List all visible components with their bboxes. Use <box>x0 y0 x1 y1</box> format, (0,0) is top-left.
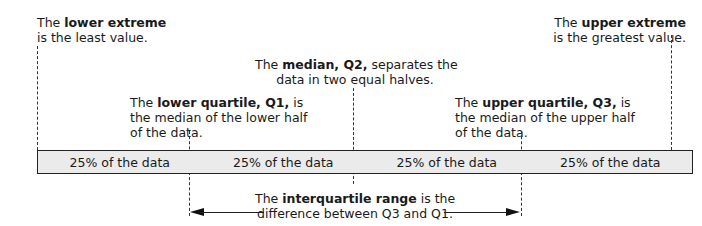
median-term: median, Q2, <box>282 57 367 72</box>
lower-quartile-term: lower quartile, Q1, <box>157 95 289 110</box>
bar-segment-3: 25% of the data <box>365 151 529 173</box>
upper-quartile-suffix: is <box>617 95 631 110</box>
median-desc: data in two equal halves. <box>255 72 455 87</box>
lower-extreme-label: The lower extreme is the least value. <box>37 15 166 45</box>
iqr-desc: difference between Q3 and Q1. <box>255 206 455 221</box>
iqr-arrow-right-line <box>444 212 508 213</box>
lower-extreme-desc: is the least value. <box>37 30 166 45</box>
bar-segment-1: 25% of the data <box>38 151 202 173</box>
upper-extreme-term: upper extreme <box>582 15 686 30</box>
median-prefix: The <box>255 57 282 72</box>
upper-extreme-marker <box>671 35 672 150</box>
upper-quartile-term: upper quartile, Q3, <box>482 95 616 110</box>
lower-quartile-label: The lower quartile, Q1, is the median of… <box>130 95 307 140</box>
bar-segment-2: 25% of the data <box>202 151 366 173</box>
iqr-label: The interquartile range is the differenc… <box>255 191 455 221</box>
bar-segment-4: 25% of the data <box>529 151 693 173</box>
lower-extreme-term: lower extreme <box>64 15 166 30</box>
upper-quartile-desc-1: the median of the upper half <box>455 110 635 125</box>
lower-quartile-prefix: The <box>130 95 157 110</box>
median-label: The median, Q2, separates the data in tw… <box>255 57 455 87</box>
upper-extreme-desc: is the greatest value. <box>553 30 686 45</box>
lower-quartile-suffix: is <box>289 95 303 110</box>
upper-extreme-label: The upper extreme is the greatest value. <box>553 15 686 45</box>
iqr-arrow-right-icon <box>506 208 520 216</box>
lower-quartile-desc-1: the median of the lower half <box>130 110 307 125</box>
iqr-suffix: is the <box>417 191 455 206</box>
upper-extreme-prefix: The <box>554 15 581 30</box>
lower-quartile-desc-2: of the data. <box>130 125 307 140</box>
data-bar: 25% of the data 25% of the data 25% of t… <box>37 150 693 174</box>
lower-extreme-marker <box>37 46 38 150</box>
upper-quartile-desc-2: of the data. <box>455 125 635 140</box>
iqr-term: interquartile range <box>282 191 417 206</box>
upper-quartile-label: The upper quartile, Q3, is the median of… <box>455 95 635 140</box>
upper-quartile-prefix: The <box>455 95 482 110</box>
iqr-prefix: The <box>255 191 282 206</box>
lower-extreme-prefix: The <box>37 15 64 30</box>
iqr-arrow-left-line <box>200 212 264 213</box>
median-suffix: separates the <box>367 57 457 72</box>
